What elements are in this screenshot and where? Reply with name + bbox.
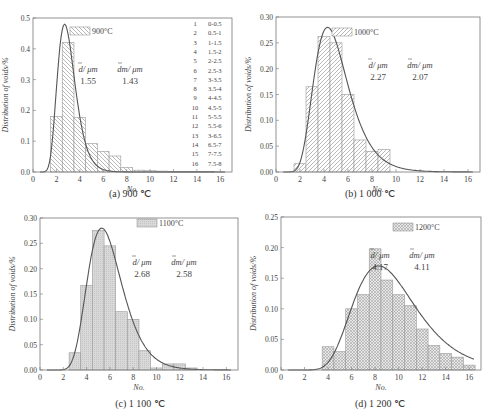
bin-index: 10: [192, 104, 199, 111]
bar: [428, 346, 440, 370]
d-mean-label: d/ μm: [370, 250, 389, 260]
y-tick-label: 0.15: [265, 274, 278, 283]
bar: [139, 351, 151, 370]
x-tick-label: 14: [442, 373, 450, 382]
x-tick-label: 6: [108, 373, 112, 382]
x-tick-label: 8: [370, 175, 374, 184]
bin-index: 5: [193, 57, 196, 64]
caption-a: (a) 900 ℃: [70, 188, 190, 199]
bin-index: 15: [192, 150, 199, 157]
y-tick-label: 0.2: [21, 106, 31, 115]
bin-range: 3.5-4: [208, 85, 222, 92]
bin-index: 14: [192, 141, 199, 148]
bin-range: 1-1.5: [208, 39, 222, 46]
bin-range: 4.5-5: [208, 104, 222, 111]
x-tick-label: 0: [38, 373, 42, 382]
dm-value: 2.58: [176, 269, 192, 279]
y-tick-label: 0.10: [260, 116, 273, 125]
bar: [104, 246, 116, 370]
dm-label: dm/ μm: [409, 250, 434, 260]
chart-panel-b: 02468101214160.000.050.100.150.200.250.3…: [240, 0, 489, 205]
x-tick-label: 16: [222, 373, 230, 382]
bin-range: 0-0.5: [208, 20, 222, 27]
x-tick-label: 12: [418, 373, 426, 382]
bar: [334, 352, 346, 370]
bin-range: 2-2.5: [208, 57, 222, 64]
y-tick-label: 0.15: [24, 290, 37, 299]
x-tick-label: 16: [464, 175, 472, 184]
bin-index: 3: [193, 39, 196, 46]
chart-panel-d: 02468101214160.000.050.100.150.200.25No.…: [240, 205, 489, 415]
x-tick-label: 14: [193, 175, 201, 184]
x-tick-label: 2: [61, 373, 65, 382]
y-tick-label: 0.05: [24, 341, 37, 350]
chart-d: 02468101214160.000.050.100.150.200.25No.…: [240, 205, 489, 415]
dm-label: dm/ μm: [117, 64, 142, 74]
bar: [393, 295, 405, 370]
x-tick-label: 0: [274, 175, 278, 184]
bar: [357, 295, 369, 370]
bin-index: 12: [192, 122, 199, 129]
x-tick-label: 4: [85, 373, 89, 382]
bar: [69, 353, 81, 370]
x-tick-label: 12: [176, 373, 184, 382]
bin-index: 9: [193, 94, 196, 101]
dm-value: 4.11: [414, 262, 429, 272]
bin-range: 3-6.5: [208, 132, 222, 139]
x-tick-label: 10: [152, 373, 160, 382]
bar: [452, 357, 464, 370]
bin-index: 1: [193, 20, 196, 27]
d-mean-value: 4.17: [372, 262, 388, 272]
bin-index: 8: [193, 85, 196, 92]
x-tick-label: 2: [298, 175, 302, 184]
x-tick-label: 4: [322, 175, 326, 184]
x-axis-label: No.: [132, 383, 144, 392]
x-tick-label: 8: [131, 373, 135, 382]
bar: [97, 151, 109, 172]
legend-label: 1100°C: [159, 219, 183, 228]
x-tick-label: 16: [465, 373, 473, 382]
bin-range: 6.5-7: [208, 141, 222, 148]
bar: [116, 312, 128, 370]
chart-panel-c: 02468101214160.000.050.100.150.200.250.3…: [0, 205, 245, 415]
x-tick-label: 0: [279, 373, 283, 382]
bars-c: [69, 231, 197, 370]
chart-b: 02468101214160.000.050.100.150.200.250.3…: [240, 0, 489, 205]
bin-range: 2.5-3: [208, 67, 222, 74]
d-mean-label: d/ μm: [132, 257, 151, 267]
bar: [127, 319, 139, 370]
legend-swatch: [137, 219, 157, 227]
y-axis-label: Distribution of voids/%: [8, 256, 17, 332]
y-tick-label: 0.4: [21, 45, 31, 54]
bin-index: 2: [193, 29, 196, 36]
bin-index: 11: [192, 113, 198, 120]
bin-index: 7: [193, 76, 197, 83]
y-tick-label: 0.25: [265, 213, 278, 222]
y-tick-label: 0.5: [21, 14, 31, 23]
bin-range: 7.5-8: [208, 160, 222, 167]
y-tick-label: 0.1: [21, 137, 31, 146]
bar: [342, 95, 354, 173]
bin-range: 3-3.5: [208, 76, 222, 83]
y-tick-label: 0.10: [265, 305, 278, 314]
dm-label: dm/ μm: [171, 257, 196, 267]
y-tick-label: 0.15: [260, 91, 273, 100]
y-tick-label: 0.20: [24, 265, 37, 274]
y-tick-label: 0.25: [24, 239, 37, 248]
bin-index: 13: [192, 132, 199, 139]
x-tick-label: 8: [373, 373, 377, 382]
x-tick-label: 2: [303, 373, 307, 382]
caption-d: (d) 1 200 ℃: [320, 398, 440, 409]
y-tick-label: 0.00: [265, 366, 278, 375]
dm-label: dm/ μm: [407, 60, 432, 70]
chart-panel-a: 02468101214160.00.10.20.30.40.5No.Distri…: [0, 0, 245, 205]
y-tick-label: 0.0: [21, 168, 31, 177]
bin-range: 5.5-6: [208, 122, 222, 129]
bar: [366, 151, 378, 172]
x-tick-label: 12: [169, 175, 177, 184]
y-tick-label: 0.20: [260, 65, 273, 74]
chart-c: 02468101214160.000.050.100.150.200.250.3…: [0, 205, 245, 415]
y-tick-label: 0.05: [260, 142, 273, 151]
bar: [318, 37, 330, 172]
d-mean-label: d/ μm: [368, 60, 387, 70]
